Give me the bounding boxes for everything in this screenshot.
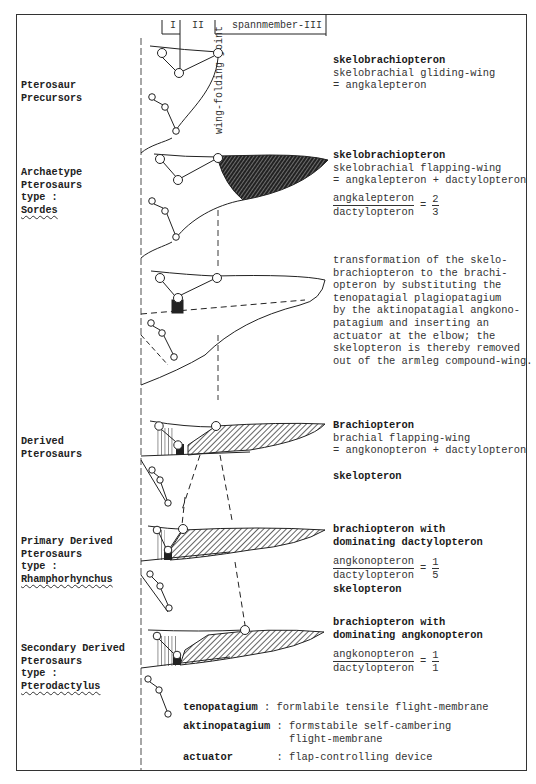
type-name-sordes: Sordes	[21, 205, 58, 216]
row4-description: Brachiopteron brachial flapping-wing = a…	[333, 419, 526, 457]
group-label-primary-derived: Primary Derived Pterosaurs type : Rhamph…	[21, 536, 113, 586]
legend-actuator: actuator : flap-controlling device	[183, 751, 432, 764]
row6-title: brachiopteron with dominating angkonopte…	[333, 616, 483, 641]
type-name-pterodactylus: Pterodactylus	[21, 681, 100, 692]
row6-ratio: angkonopterondactylopteron = 11	[333, 648, 439, 674]
group-label-secondary-derived: Secondary Derived Pterosaurs type : Pter…	[21, 643, 125, 693]
legend-aktinopatagium: aktinopatagium : formstabile self-camber…	[183, 720, 451, 745]
group-label-derived: Derived Pterosaurs	[21, 436, 82, 461]
legend-tenopatagium: tenopatagium : formlabile tensile flight…	[183, 701, 489, 714]
row4-skelopteron: skelopteron	[333, 470, 402, 483]
transformation-description: transformation of the skelo- brachiopter…	[333, 254, 533, 367]
row2-description: skelobrachiopteron skelobrachial flappin…	[333, 149, 526, 187]
row5-skelopteron: skelopteron	[333, 583, 402, 596]
row5-title: brachiopteron with dominating dactylopte…	[333, 523, 483, 548]
row1-description: skelobrachiopteron skelobrachial gliding…	[333, 54, 495, 92]
group-label-pterosaur-precursors: Pterosaur Precursors	[21, 80, 82, 105]
row5-ratio: angkonopterondactylopteron = 15	[333, 555, 439, 581]
group-label-archaetype: Archaetype Pterosaurs type : Sordes	[21, 167, 82, 217]
type-name-rhamphorhynchus: Rhamphorhynchus	[21, 574, 113, 585]
row2-ratio: angkalepterondactylopteron = 23	[333, 192, 439, 218]
